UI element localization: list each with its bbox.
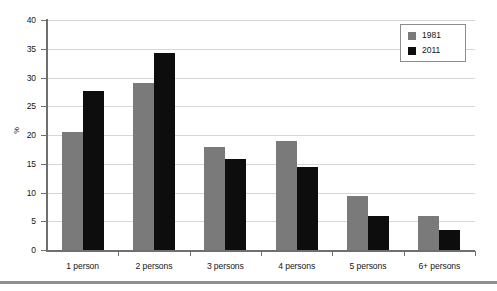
legend-label-2011: 2011 <box>422 46 440 55</box>
x-axis-tick <box>475 251 476 256</box>
gridline <box>47 135 475 136</box>
x-axis-tick-label: 5 persons <box>332 261 403 271</box>
y-axis-tick-label: 30 <box>8 74 36 83</box>
legend-swatch-icon-1981 <box>408 32 416 40</box>
x-axis-tick <box>261 251 262 256</box>
legend-entry-1981: 1981 <box>408 31 441 40</box>
x-axis-tick-label: 4 persons <box>261 261 332 271</box>
bottom-divider <box>0 281 497 284</box>
y-axis-title: % <box>12 127 21 134</box>
bar-2011-6-persons <box>439 230 460 250</box>
y-axis-tick-label: 10 <box>8 189 36 198</box>
bar-1981-5-persons <box>347 196 368 250</box>
x-axis-tick-label: 2 persons <box>118 261 189 271</box>
y-axis-tick <box>41 135 46 136</box>
bar-1981-3-persons <box>204 147 225 250</box>
gridline <box>47 20 475 21</box>
bar-2011-1-person <box>83 91 104 250</box>
y-axis-tick <box>41 106 46 107</box>
y-axis-tick-label: 25 <box>8 102 36 111</box>
bar-2011-2-persons <box>154 53 175 250</box>
bar-2011-3-persons <box>225 159 246 250</box>
bar-2011-5-persons <box>368 216 389 251</box>
y-axis-tick-label: 15 <box>8 160 36 169</box>
x-axis-tick <box>190 251 191 256</box>
x-axis-tick <box>332 251 333 256</box>
legend-swatch-icon-2011 <box>408 47 416 55</box>
gridline <box>47 221 475 222</box>
bar-1981-1-person <box>62 132 83 250</box>
x-axis-tick-label: 1 person <box>47 261 118 271</box>
bar-2011-4-persons <box>297 167 318 250</box>
y-axis-tick <box>41 20 46 21</box>
bar-1981-4-persons <box>276 141 297 250</box>
y-axis-tick <box>41 78 46 79</box>
y-axis-tick-label: 0 <box>8 246 36 255</box>
x-axis-tick <box>118 251 119 256</box>
y-axis-tick <box>41 250 46 251</box>
y-axis-tick <box>41 49 46 50</box>
gridline <box>47 78 475 79</box>
gridline <box>47 193 475 194</box>
y-axis-tick <box>41 164 46 165</box>
legend-entry-2011: 2011 <box>408 46 440 55</box>
x-axis-tick-label: 3 persons <box>190 261 261 271</box>
y-axis-tick <box>41 221 46 222</box>
bar-1981-2-persons <box>133 83 154 250</box>
bar-1981-6-persons <box>418 216 439 251</box>
y-axis-tick-label: 40 <box>8 16 36 25</box>
y-axis-tick <box>41 193 46 194</box>
gridline <box>47 164 475 165</box>
x-axis-tick <box>404 251 405 256</box>
y-axis-tick-label: 5 <box>8 217 36 226</box>
legend: 1981 2011 <box>400 24 466 62</box>
x-axis-tick-label: 6+ persons <box>404 261 475 271</box>
gridline <box>47 106 475 107</box>
legend-label-1981: 1981 <box>422 31 441 40</box>
grouped-bar-chart: 4035302520151050 % 1 person2 persons3 pe… <box>0 0 497 291</box>
y-axis-line <box>46 19 48 251</box>
y-axis-tick-label: 35 <box>8 45 36 54</box>
